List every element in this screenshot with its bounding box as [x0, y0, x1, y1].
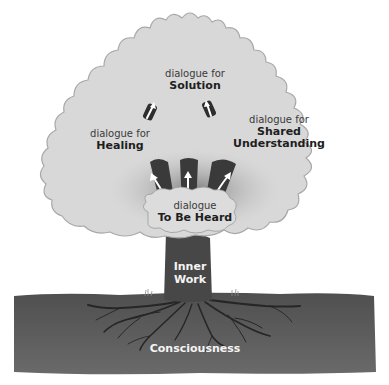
node-solution: dialogue for Solution [150, 68, 240, 92]
node-solution-prefix: dialogue for [150, 68, 240, 80]
node-to-be-heard-prefix: dialogue [145, 200, 245, 212]
node-to-be-heard: dialogue To Be Heard [145, 200, 245, 224]
tree-illustration [0, 0, 389, 385]
node-shared-understanding-name-line2: Understanding [224, 138, 334, 151]
ground-label-text: Consciousness [140, 343, 250, 356]
node-to-be-heard-name: To Be Heard [145, 212, 245, 225]
trunk-label: Inner Work [160, 261, 220, 286]
ground-band [14, 293, 376, 375]
ground-label: Consciousness [140, 343, 250, 356]
node-healing-prefix: dialogue for [75, 128, 165, 140]
node-shared-understanding: dialogue for Shared Understanding [224, 114, 334, 151]
dialogue-tree-diagram: dialogue for Solution dialogue for Heali… [0, 0, 389, 385]
node-shared-understanding-prefix: dialogue for [224, 114, 334, 126]
trunk-label-line1: Inner [160, 261, 220, 274]
node-solution-name: Solution [150, 80, 240, 93]
node-healing-name: Healing [75, 140, 165, 153]
trunk-label-line2: Work [160, 274, 220, 287]
node-healing: dialogue for Healing [75, 128, 165, 152]
